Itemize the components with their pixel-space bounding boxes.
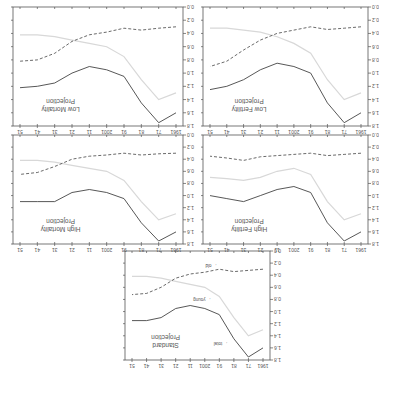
x-tick-label: 81: [324, 247, 330, 253]
y-tick-label: 1.0: [372, 70, 379, 76]
series-old-line: [20, 27, 176, 61]
x-tick-label: 2001: [288, 247, 299, 253]
chart-title: High Fertility: [230, 225, 267, 233]
series-young-line: [20, 35, 176, 100]
y-tick-label: 1.6: [187, 229, 194, 235]
y-tick-label: 0.8: [372, 57, 379, 63]
label-young: ← young: [193, 297, 212, 302]
x-tick-label: 11: [87, 129, 92, 135]
x-tick-label: 71: [245, 363, 251, 369]
y-tick-label: 1.6: [372, 110, 379, 116]
chart-standard-projection: 0.00.20.40.60.81.01.21.41.61.81961718191…: [120, 247, 290, 372]
x-tick-label: 2001: [101, 129, 112, 135]
x-tick-label: 51: [129, 363, 135, 369]
chart-title-line2: Projection: [151, 333, 180, 341]
y-tick-label: 1.2: [372, 205, 379, 211]
x-tick-label: 1961: [170, 247, 181, 253]
y-tick-label: 0.4: [372, 30, 379, 36]
y-tick-label: 1.4: [187, 97, 194, 103]
y-tick-label: 1.2: [187, 205, 194, 211]
plot-frame: [203, 7, 368, 126]
figure: 0.00.20.40.60.81.01.21.41.61.81961718191…: [0, 0, 408, 393]
x-tick-label: 41: [34, 129, 40, 135]
y-tick-label: 1.4: [372, 217, 379, 223]
x-tick-label: 2001: [199, 363, 210, 369]
x-tick-label: 21: [257, 129, 263, 135]
series-young-line: [210, 28, 361, 99]
y-tick-label: 0.2: [372, 144, 379, 150]
y-tick-label: 0.6: [187, 44, 194, 50]
x-tick-label: 21: [173, 363, 179, 369]
x-tick-label: 21: [257, 247, 263, 253]
y-tick-label: 0.4: [187, 30, 194, 36]
x-tick-label: 71: [156, 129, 162, 135]
x-tick-label: 41: [224, 247, 230, 253]
plot-frame: [125, 251, 270, 360]
x-tick-label: 1961: [355, 129, 366, 135]
series-young-line: [20, 160, 176, 219]
y-tick-label: 1.4: [372, 97, 379, 103]
series-total-line: [20, 67, 176, 123]
plot-frame: [13, 135, 183, 244]
x-tick-label: 91: [121, 129, 127, 135]
y-tick-label: 0.2: [187, 17, 194, 23]
series-old-line: [132, 269, 263, 294]
x-tick-label: 21: [69, 129, 75, 135]
y-tick-label: 1.8: [372, 241, 379, 247]
x-tick-label: 71: [341, 129, 347, 135]
x-tick-label: 91: [121, 247, 127, 253]
y-tick-label: 1.6: [187, 110, 194, 116]
y-tick-label: 0.6: [372, 44, 379, 50]
x-tick-label: 91: [308, 129, 314, 135]
x-tick-label: 51: [207, 247, 213, 253]
x-tick-label: 1961: [170, 129, 181, 135]
y-tick-label: 1.4: [187, 217, 194, 223]
y-tick-label: 1.0: [274, 309, 281, 315]
y-tick-label: 1.0: [372, 193, 379, 199]
y-tick-label: 0.2: [187, 144, 194, 150]
chart-title-line2: Projection: [46, 97, 75, 105]
chart-title: Low Fertility: [231, 105, 266, 113]
series-old-line: [210, 27, 361, 67]
x-tick-label: 91: [308, 247, 314, 253]
y-tick-label: 1.0: [187, 70, 194, 76]
x-tick-label: 91: [216, 363, 222, 369]
y-tick-label: 0.6: [274, 284, 281, 290]
y-tick-label: 1.4: [274, 333, 281, 339]
chart-high-mortality-projection: 0.00.20.40.60.81.01.21.41.61.81961718191…: [8, 131, 203, 256]
chart-title-line2: Projection: [234, 217, 263, 225]
y-tick-label: 0.0: [372, 4, 379, 10]
x-tick-label: 11: [187, 363, 192, 369]
x-tick-label: 41: [144, 363, 150, 369]
y-tick-label: 1.8: [187, 123, 194, 129]
x-tick-label: 81: [138, 247, 144, 253]
x-tick-label: 81: [324, 129, 330, 135]
y-tick-label: 0.2: [372, 17, 379, 23]
series-total-line: [132, 306, 263, 358]
x-tick-label: 21: [69, 247, 75, 253]
x-tick-label: 41: [34, 247, 40, 253]
y-tick-label: 0.8: [187, 57, 194, 63]
x-tick-label: 2001: [101, 247, 112, 253]
series-old-line: [20, 153, 176, 174]
series-young-line: [132, 276, 263, 335]
chart-title-line2: Projection: [234, 97, 263, 105]
x-tick-label: 31: [52, 129, 58, 135]
x-tick-label: 31: [241, 129, 247, 135]
y-tick-label: 0.8: [372, 180, 379, 186]
x-tick-label: 81: [138, 129, 144, 135]
chart-low-fertility-projection: 0.00.20.40.60.81.01.21.41.61.81961718191…: [198, 3, 388, 138]
x-tick-label: 71: [341, 247, 347, 253]
y-tick-label: 1.2: [187, 83, 194, 89]
y-tick-label: 1.2: [372, 83, 379, 89]
y-tick-label: 1.8: [187, 241, 194, 247]
y-tick-label: 0.4: [274, 272, 281, 278]
y-tick-label: 1.6: [274, 345, 281, 351]
plot-frame: [13, 7, 183, 126]
y-tick-label: 0.2: [274, 260, 281, 266]
x-tick-label: 11: [274, 247, 279, 253]
x-tick-label: 31: [241, 247, 247, 253]
x-tick-label: 51: [207, 129, 213, 135]
chart-title: High Mortality: [40, 225, 80, 233]
x-tick-label: 51: [17, 247, 23, 253]
